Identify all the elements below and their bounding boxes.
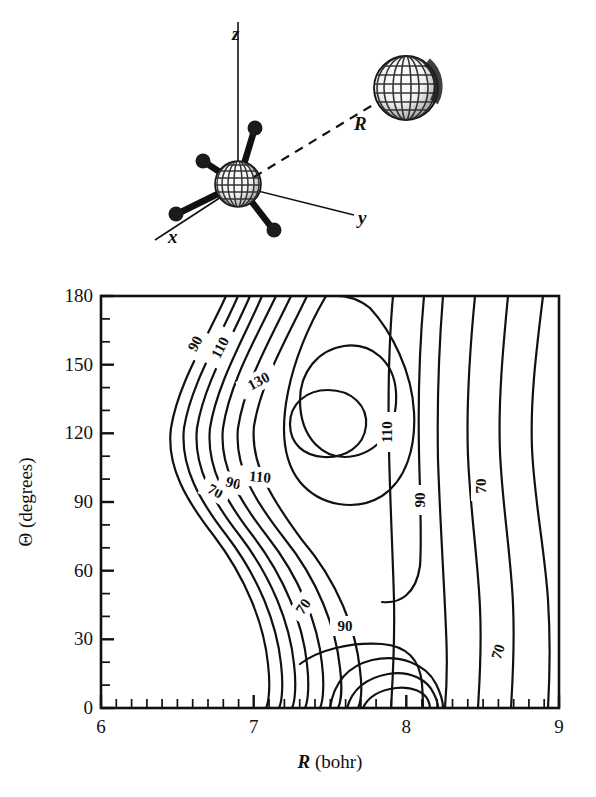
center-atom	[215, 161, 261, 207]
svg-text:90: 90	[338, 618, 353, 634]
figure-svg: z y x	[0, 0, 596, 797]
y-axis-label: y	[356, 207, 367, 228]
y-tick-60: 60	[74, 560, 93, 581]
ligand-atom-3	[169, 207, 184, 222]
distance-dashed-line	[254, 100, 381, 177]
contour-right-6	[532, 296, 550, 708]
x-tick-labels: 6 7 8 9	[96, 716, 564, 737]
ligand-atom-4	[267, 223, 282, 238]
svg-text:90: 90	[412, 493, 428, 508]
contour-label-70-bottom: 70	[286, 588, 320, 624]
svg-text:110: 110	[249, 468, 272, 486]
svg-text:70: 70	[473, 479, 489, 494]
contour-labels: 90 110 130 70 90 110	[179, 325, 512, 669]
y-major-ticks	[101, 296, 114, 708]
x-tick-6: 6	[96, 716, 106, 737]
distance-label-R: R	[353, 113, 367, 134]
y-tick-0: 0	[84, 697, 94, 718]
x-axis-title: R (bohr)	[297, 751, 363, 773]
svg-text:110: 110	[379, 421, 395, 443]
contour-label-90-right: 90	[410, 485, 430, 515]
contour-label-110-mid: 110	[239, 465, 281, 488]
y-tick-labels: 0 30 60 90 120 150 180	[65, 285, 94, 718]
contour-label-70-right: 70	[471, 471, 491, 501]
x-axis-label: x	[167, 226, 178, 247]
y-tick-180: 180	[65, 285, 94, 306]
z-axis-label: z	[231, 23, 240, 44]
figure-root: z y x	[0, 0, 596, 797]
molecule-diagram: z y x	[155, 22, 438, 247]
x-tick-7: 7	[249, 716, 259, 737]
partner-atom	[374, 56, 438, 120]
y-tick-150: 150	[65, 354, 94, 375]
contour-right-3	[438, 296, 447, 708]
contour-70-left	[222, 296, 323, 708]
ligand-atom-1	[248, 121, 263, 136]
contour-plot: 0 30 60 90 120 150 180 Θ (degrees)	[15, 285, 564, 773]
contour-70-right	[467, 296, 480, 708]
contour-bottom-3	[363, 688, 430, 708]
contour-label-90-bottom: 90	[330, 616, 360, 636]
y-tick-30: 30	[74, 628, 93, 649]
contour-label-110-right: 110	[377, 412, 397, 452]
y-tick-120: 120	[65, 422, 94, 443]
contour-label-70-bottomright: 70	[484, 634, 512, 669]
contour-110-loop	[284, 296, 414, 505]
contour-90-left	[238, 296, 342, 708]
ligand-atom-2	[196, 154, 211, 169]
x-tick-9: 9	[554, 716, 564, 737]
x-tick-8: 8	[402, 716, 412, 737]
contour-150-well	[290, 390, 366, 457]
y-tick-90: 90	[74, 491, 93, 512]
y-axis-title: Θ (degrees)	[15, 457, 37, 546]
